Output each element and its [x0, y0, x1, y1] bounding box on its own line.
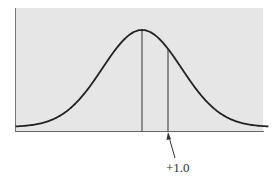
plot-background	[15, 8, 263, 131]
normal-distribution-chart	[0, 0, 278, 181]
annotation-arrow-shaft	[169, 137, 175, 158]
plus-one-sd-label: +1.0	[166, 161, 190, 175]
arrow-head-icon	[167, 132, 172, 140]
